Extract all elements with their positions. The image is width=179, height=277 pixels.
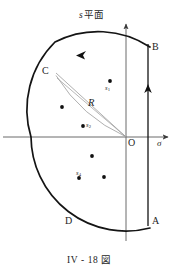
pole-dot-lower-right xyxy=(102,175,106,179)
figure-caption: IV - 18 図 xyxy=(0,252,179,266)
real-axis-label: σ xyxy=(157,139,161,148)
radius-label: R xyxy=(88,98,94,109)
pole-dot-upper-left xyxy=(60,105,64,109)
plane-label-text: 平面 xyxy=(84,10,104,20)
pole-label-s2: s2 xyxy=(86,122,91,129)
pole-label-s2-subscript: 2 xyxy=(89,124,91,129)
pole-label-s1-subscript: 1 xyxy=(108,87,110,92)
contour-point-label-B: B xyxy=(152,42,159,52)
contour-point-label-A: A xyxy=(152,216,159,226)
pole-dot-s2 xyxy=(81,124,85,128)
pole-label-s1: s1 xyxy=(105,85,110,92)
pole-label-s4: s4 xyxy=(76,170,81,177)
contour-point-label-C: C xyxy=(42,66,49,76)
plane-label: s平面 xyxy=(79,11,104,21)
pole-dot-s1 xyxy=(108,79,112,83)
origin-label: O xyxy=(128,138,135,148)
pole-label-s4-subscript: 4 xyxy=(79,172,81,177)
contour-arc xyxy=(27,32,150,231)
figure-container: s平面 B C D A O σ R s1 s2 s4 IV - 18 図 xyxy=(0,0,179,277)
pole-dot-lower-mid xyxy=(90,154,94,158)
arc-direction-arrow-icon xyxy=(76,51,86,60)
contour-point-label-D: D xyxy=(65,216,72,226)
